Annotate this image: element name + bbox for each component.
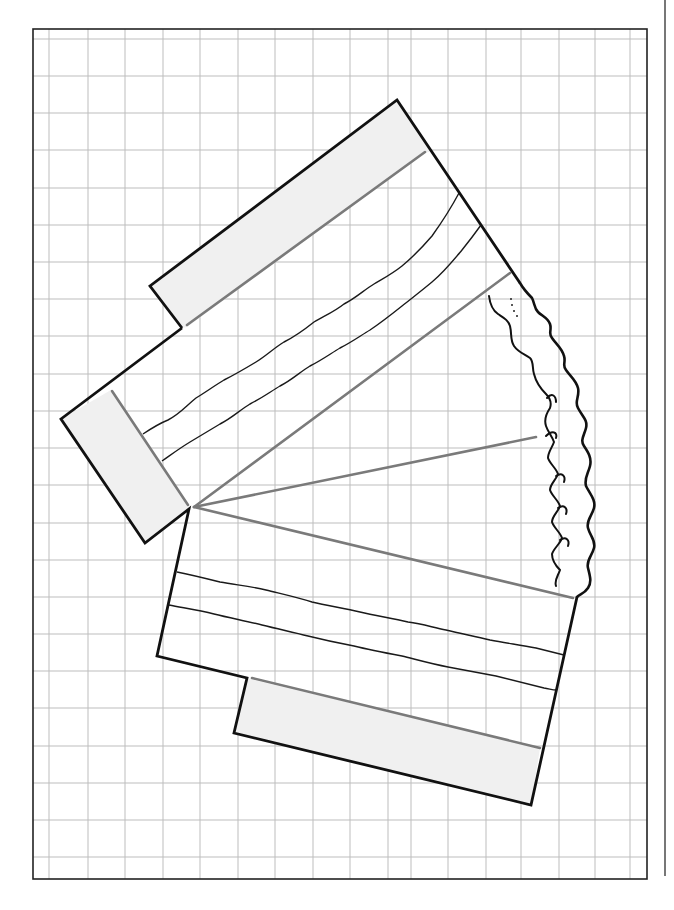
torn-edge [489,283,594,597]
torn-edge-inner [489,296,562,586]
torn-edge-speckles [510,298,518,317]
fold-line-radial-1 [194,273,510,507]
wavy-line-lower-1 [177,572,564,655]
fold-lines [112,152,573,748]
diagram-canvas [0,0,674,910]
wavy-line-lower-2 [169,605,556,690]
fold-line-radial-3 [194,507,573,598]
lower-strip-panel [234,678,540,805]
upper-strip-panel [150,100,432,328]
torn-edge-outer [520,283,594,597]
